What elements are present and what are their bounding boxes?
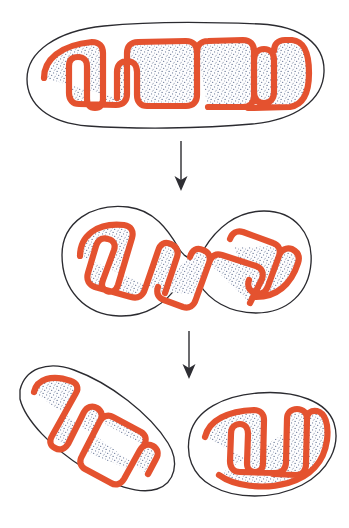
stage-1-group <box>27 22 324 128</box>
figure-canvas <box>0 0 349 528</box>
mitochondrial-division-figure <box>0 0 349 528</box>
